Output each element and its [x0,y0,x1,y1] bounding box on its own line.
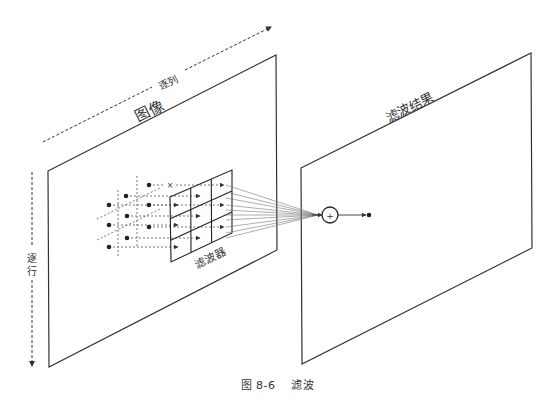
row-scan-label-2: 行 [27,265,37,277]
output-point [367,213,372,218]
output-image-label: 滤波结果 [383,89,436,126]
column-scan-label: 逐列 [156,72,179,92]
sum-symbol: + [326,211,334,221]
figure-caption: 图 8-6 滤波 [0,376,555,392]
row-scan-label-1: 逐 [27,253,37,264]
input-image-label: 图像 [132,96,167,126]
fan-lines [226,185,318,238]
skipped-marker: × [167,181,174,190]
filter-diagram: 逐列 逐 行 图像 滤波结果 × [0,0,555,410]
